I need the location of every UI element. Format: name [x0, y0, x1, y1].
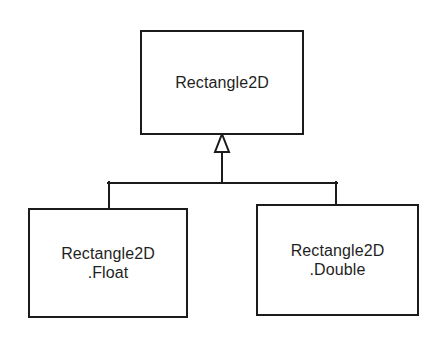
hollow-triangle-arrowhead-icon	[215, 134, 229, 152]
class-box-rectangle2d-float: Rectangle2D .Float	[28, 208, 188, 318]
class-name-label-line1: Rectangle2D	[291, 241, 385, 260]
class-name-label-line1: Rectangle2D	[61, 244, 155, 263]
class-box-rectangle2d-double: Rectangle2D .Double	[256, 204, 419, 316]
class-box-rectangle2d: Rectangle2D	[140, 30, 304, 135]
class-name-label: Rectangle2D	[175, 73, 269, 92]
class-name-label-line2: .Float	[88, 263, 129, 282]
class-name-label-line2: .Double	[310, 260, 366, 279]
uml-class-diagram: Rectangle2D Rectangle2D .Float Rectangle…	[0, 0, 439, 339]
